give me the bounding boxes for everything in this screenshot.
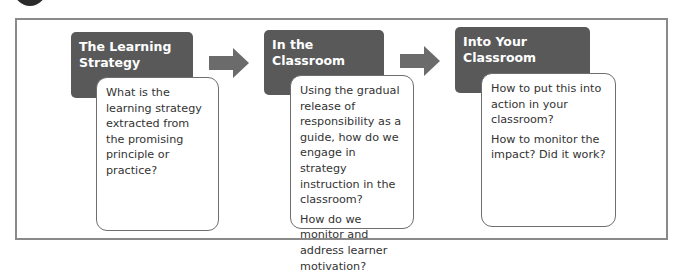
step-2-question-2: How do we monitor and address learner mo… xyxy=(300,212,404,274)
step-1-card: What is the learning strategy extracted … xyxy=(96,77,219,231)
arrow-right-icon xyxy=(209,48,249,78)
step-1-question-1: What is the learning strategy extracted … xyxy=(106,85,209,179)
step-1-title-line-2: Strategy xyxy=(79,55,185,71)
step-2-card: Using the gradual release of responsibil… xyxy=(290,75,414,229)
step-3-question-2: How to monitor the impact? Did it work? xyxy=(491,132,606,163)
step-3-title: Into Your Classroom xyxy=(463,34,582,66)
step-2-question-1: Using the gradual release of responsibil… xyxy=(300,83,404,208)
step-3-card: How to put this into action in your clas… xyxy=(481,73,616,227)
step-3-question-1: How to put this into action in your clas… xyxy=(491,81,606,128)
step-1-title-line-1: The Learning xyxy=(79,39,185,55)
step-2-title: In the Classroom xyxy=(272,37,376,69)
step-number-circle xyxy=(14,0,46,6)
arrow-right-icon xyxy=(400,46,440,76)
